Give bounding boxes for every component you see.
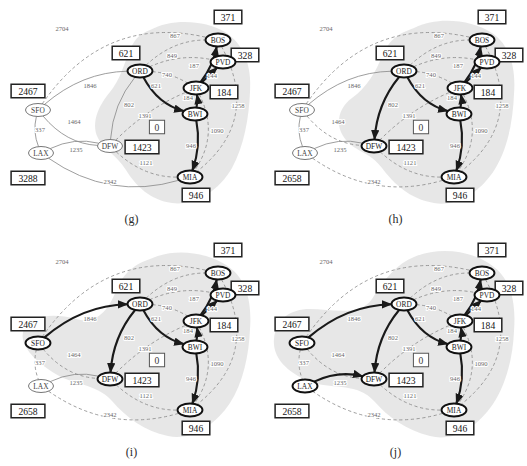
edge-weight-label: 2704 — [319, 25, 333, 32]
node-dfw[interactable]: DFW — [98, 140, 123, 153]
edge-weight-label: 144 — [207, 305, 218, 312]
node-label: MIA — [447, 406, 462, 415]
edge-weight-label: 1235 — [69, 146, 83, 153]
node-jfk[interactable]: JFK — [184, 82, 209, 95]
distance-value: 0 — [419, 355, 424, 366]
distance-value: 371 — [221, 245, 236, 256]
node-label: BWI — [452, 110, 467, 119]
node-label: BOS — [211, 36, 226, 45]
node-sfo[interactable]: SFO — [290, 104, 315, 117]
distance-value: 2467 — [282, 86, 301, 97]
distance-value: 621 — [119, 281, 134, 292]
distance-value: 621 — [383, 281, 398, 292]
distance-value: 1423 — [132, 142, 151, 153]
node-label: BOS — [475, 269, 490, 278]
node-label: MIA — [183, 406, 198, 415]
edge-weight-label: 802 — [124, 334, 134, 341]
distance-value: 1423 — [396, 375, 415, 386]
node-bwi[interactable]: BWI — [183, 341, 208, 354]
node-sfo[interactable]: SFO — [26, 337, 51, 350]
node-bos[interactable]: BOS — [470, 34, 495, 47]
node-bos[interactable]: BOS — [470, 267, 495, 280]
graph-i: 2704270486786784984974074062162118718714… — [0, 233, 263, 466]
distance-value: 328 — [502, 50, 517, 61]
node-label: PVD — [479, 291, 495, 300]
node-bwi[interactable]: BWI — [447, 341, 472, 354]
node-ord[interactable]: ORD — [128, 298, 153, 311]
graph-h: 2704270486786784984974074062162118718714… — [264, 0, 527, 233]
edge-weight-label: 1235 — [69, 379, 83, 386]
node-ord[interactable]: ORD — [392, 298, 417, 311]
edge-weight-label: 740 — [426, 304, 437, 311]
edge-weight-label: 849 — [431, 52, 442, 59]
node-lax[interactable]: LAX — [29, 147, 54, 160]
node-label: LAX — [297, 149, 313, 158]
node-jfk[interactable]: JFK — [448, 82, 473, 95]
edge-weight-label: 946 — [450, 375, 461, 382]
edge-weight-label: 187 — [189, 295, 200, 302]
edge-weight-label: 1121 — [404, 392, 417, 399]
node-bwi[interactable]: BWI — [447, 108, 472, 121]
node-lax[interactable]: LAX — [293, 380, 318, 393]
node-mia[interactable]: MIA — [178, 171, 203, 184]
distance-box-bos: 371 — [478, 243, 506, 257]
node-pvd[interactable]: PVD — [211, 289, 236, 302]
node-pvd[interactable]: PVD — [475, 289, 500, 302]
node-bos[interactable]: BOS — [206, 267, 231, 280]
node-dfw[interactable]: DFW — [362, 373, 387, 386]
distance-value: 328 — [502, 283, 517, 294]
node-sfo[interactable]: SFO — [290, 337, 315, 350]
edge-weight-label: 1846 — [347, 315, 361, 322]
node-bwi[interactable]: BWI — [183, 108, 208, 121]
node-mia[interactable]: MIA — [178, 404, 203, 417]
node-mia[interactable]: MIA — [442, 171, 467, 184]
distance-box-jfk: 184 — [474, 85, 502, 99]
node-pvd[interactable]: PVD — [475, 56, 500, 69]
edge-weight-label: 1464 — [67, 351, 81, 358]
node-dfw[interactable]: DFW — [362, 140, 387, 153]
node-label: BWI — [452, 343, 467, 352]
distance-box-mia: 946 — [446, 421, 474, 435]
node-bos[interactable]: BOS — [206, 34, 231, 47]
edge-weight-label: 867 — [170, 265, 181, 272]
edge-weight-label: 1121 — [404, 159, 417, 166]
distance-value: 2467 — [18, 319, 37, 330]
node-mia[interactable]: MIA — [442, 404, 467, 417]
distance-box-lax: 2658 — [11, 404, 45, 418]
node-label: ORD — [396, 300, 412, 309]
distance-value: 621 — [119, 48, 134, 59]
node-label: SFO — [31, 106, 45, 115]
node-dfw[interactable]: DFW — [98, 373, 123, 386]
node-label: SFO — [295, 106, 309, 115]
node-label: JFK — [454, 317, 467, 326]
distance-box-jfk: 184 — [210, 85, 238, 99]
distance-box-ord: 621 — [112, 279, 140, 293]
edge-weight-label: 337 — [35, 359, 46, 366]
node-label: LAX — [297, 382, 313, 391]
node-label: MIA — [183, 173, 198, 182]
distance-box-sfo: 2467 — [11, 84, 45, 98]
edge-weight-label: 621 — [151, 82, 161, 89]
node-lax[interactable]: LAX — [293, 147, 318, 160]
node-lax[interactable]: LAX — [29, 380, 54, 393]
node-ord[interactable]: ORD — [392, 65, 417, 78]
distance-value: 328 — [238, 283, 253, 294]
distance-box-bos: 371 — [214, 243, 242, 257]
distance-value: 946 — [453, 190, 468, 201]
distance-value: 946 — [189, 423, 204, 434]
node-label: DFW — [102, 142, 119, 151]
distance-value: 371 — [221, 12, 236, 23]
distance-value: 184 — [217, 320, 232, 331]
edge-weight-label: 1258 — [495, 102, 509, 109]
node-jfk[interactable]: JFK — [184, 315, 209, 328]
node-jfk[interactable]: JFK — [448, 315, 473, 328]
edge-weight-label: 740 — [426, 71, 437, 78]
node-sfo[interactable]: SFO — [26, 104, 51, 117]
node-ord[interactable]: ORD — [128, 65, 153, 78]
edge-weight-label: 2704 — [55, 25, 69, 32]
edge-weight-label: 187 — [189, 62, 200, 69]
node-label: ORD — [132, 300, 148, 309]
node-label: PVD — [479, 58, 495, 67]
node-pvd[interactable]: PVD — [211, 56, 236, 69]
edge-weight-label: 1090 — [210, 360, 224, 367]
